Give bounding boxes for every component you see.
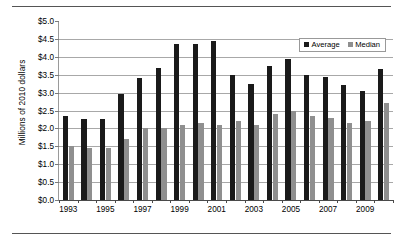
bar-median <box>69 146 74 200</box>
bar-average <box>341 85 346 200</box>
bar-average <box>63 116 68 200</box>
x-tick-mark <box>115 200 116 203</box>
bar-median <box>180 125 185 200</box>
bar-average <box>174 44 179 200</box>
bar-average <box>230 75 235 200</box>
bar-median <box>217 125 222 200</box>
x-tick-mark <box>263 200 264 203</box>
x-tick-mark <box>393 200 394 203</box>
x-tick-label: 1997 <box>133 205 151 214</box>
x-tick-mark <box>319 200 320 203</box>
bar-median <box>365 121 370 200</box>
y-tick-label: $3.0 <box>38 88 54 97</box>
bar-average <box>193 44 198 200</box>
y-tick-label: $0.0 <box>38 196 54 205</box>
y-tick-label: $2.0 <box>38 124 54 133</box>
x-tick-mark <box>337 200 338 203</box>
chart-legend: Average Median <box>299 38 386 52</box>
bar-average <box>118 94 123 200</box>
x-tick-mark <box>170 200 171 203</box>
bar-average <box>285 59 290 200</box>
y-tick-label: $4.0 <box>38 52 54 61</box>
bar-average <box>323 77 328 201</box>
x-tick-label: 2009 <box>356 205 374 214</box>
bar-average <box>378 69 383 200</box>
bar-group <box>96 21 115 200</box>
x-tick-label: 2007 <box>319 205 337 214</box>
x-tick-mark <box>282 200 283 203</box>
x-tick-mark <box>189 200 190 203</box>
bar-group <box>115 21 134 200</box>
bar-median <box>236 121 241 200</box>
x-tick-mark <box>96 200 97 203</box>
bar-group <box>133 21 152 200</box>
x-tick-mark <box>152 200 153 203</box>
y-tick-label: $3.5 <box>38 70 54 79</box>
bar-median <box>87 148 92 200</box>
bar-average <box>156 68 161 200</box>
legend-swatch-median-icon <box>348 42 353 47</box>
bar-group <box>226 21 245 200</box>
bar-median <box>198 123 203 200</box>
y-tick-label: $1.5 <box>38 142 54 151</box>
x-tick-label: 1999 <box>171 205 189 214</box>
bar-median <box>254 125 259 200</box>
legend-swatch-average-icon <box>304 42 309 47</box>
legend-label-average: Average <box>312 41 340 49</box>
x-tick-mark <box>356 200 357 203</box>
x-tick-label: 2005 <box>282 205 300 214</box>
legend-item-average: Average <box>304 41 340 49</box>
legend-label-median: Median <box>355 41 380 49</box>
bar-median <box>143 128 148 200</box>
x-tick-mark <box>59 200 60 203</box>
bar-average <box>100 119 105 200</box>
y-tick-label: $4.5 <box>38 34 54 43</box>
x-tick-label: 2003 <box>245 205 263 214</box>
bar-group <box>245 21 264 200</box>
y-axis-tick-labels: $5.0$4.5$4.0$3.5$3.0$2.5$2.0$1.5$1.0$0.5… <box>24 21 54 201</box>
top-divider-rule <box>12 6 391 7</box>
y-tick-label: $0.5 <box>38 178 54 187</box>
legend-item-median: Median <box>348 41 380 49</box>
bar-group <box>282 21 301 200</box>
x-tick-mark <box>300 200 301 203</box>
chart-figure: Millions of 2010 dollars $5.0$4.5$4.0$3.… <box>0 0 403 244</box>
bar-average <box>360 91 365 200</box>
bar-average <box>248 84 253 200</box>
bar-median <box>106 148 111 200</box>
bar-median <box>124 139 129 200</box>
x-tick-mark <box>226 200 227 203</box>
y-tick-label: $5.0 <box>38 17 54 26</box>
bar-average <box>304 75 309 200</box>
bar-group <box>152 21 171 200</box>
x-tick-mark <box>207 200 208 203</box>
bar-average <box>267 66 272 200</box>
x-tick-mark <box>374 200 375 203</box>
bar-group <box>59 21 78 200</box>
bar-average <box>137 78 142 200</box>
bar-median <box>273 114 278 200</box>
bar-median <box>291 111 296 201</box>
bar-group <box>263 21 282 200</box>
bottom-divider-rule <box>12 233 391 234</box>
bar-group <box>189 21 208 200</box>
x-tick-label: 2001 <box>208 205 226 214</box>
bar-median <box>310 116 315 200</box>
bar-group <box>170 21 189 200</box>
bar-average <box>211 41 216 200</box>
bar-median <box>328 118 333 200</box>
x-tick-label: 1995 <box>96 205 114 214</box>
bar-median <box>384 103 389 200</box>
x-tick-label: 1993 <box>59 205 77 214</box>
x-tick-mark <box>133 200 134 203</box>
x-tick-mark <box>245 200 246 203</box>
bar-group <box>78 21 97 200</box>
x-tick-mark <box>78 200 79 203</box>
bar-average <box>81 119 86 200</box>
y-tick-label: $2.5 <box>38 106 54 115</box>
bar-median <box>347 123 352 200</box>
bar-median <box>161 128 166 200</box>
y-tick-label: $1.0 <box>38 160 54 169</box>
bar-group <box>207 21 226 200</box>
